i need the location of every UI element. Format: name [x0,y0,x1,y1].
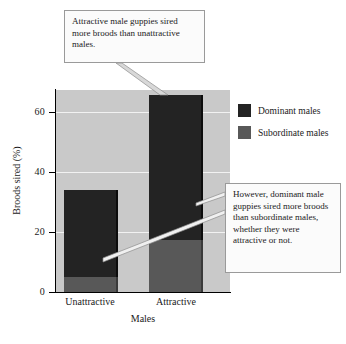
y-axis-line [55,89,56,293]
legend-swatch-dominant-males [238,104,251,117]
legend-swatch-subordinate-males [238,126,251,139]
y-tick-mark-20 [49,232,55,233]
y-axis-title: Broods sired (%) [11,121,22,241]
y-tick-label-60: 60 [35,107,45,117]
legend-label-subordinate-males: Subordinate males [258,128,328,138]
plot-inner [56,90,230,292]
legend-item-dominant-males[interactable]: Dominant males [238,104,328,117]
bar-group-unattractive [64,190,118,292]
callout-right: However, dominant male guppies sired mor… [225,183,341,273]
x-tick-label-attractive: Attractive [135,296,217,307]
bar-group-attractive [149,95,203,292]
y-tick-mark-60 [49,112,55,113]
x-tick-label-unattractive: Unattractive [48,296,132,307]
legend-label-dominant-males: Dominant males [258,106,321,116]
figure: 60 40 20 0 Unattractive Attractive Brood… [0,0,346,344]
legend-item-subordinate-males[interactable]: Subordinate males [238,126,328,139]
x-axis-title: Males [56,313,230,324]
gridline-60 [56,112,230,113]
legend: Dominant males Subordinate males [238,104,328,148]
x-axis-line [55,292,231,293]
callout-top: Attractive male guppies sired more brood… [64,10,205,63]
y-tick-label-40: 40 [35,167,45,177]
gridline-40 [56,172,230,173]
y-tick-label-20: 20 [35,227,45,237]
y-tick-mark-0 [49,292,55,293]
y-tick-label-0: 0 [40,287,45,297]
y-tick-mark-40 [49,172,55,173]
plot-area [56,90,230,292]
bar-attractive-subordinate[interactable] [149,240,203,292]
bar-unattractive-subordinate[interactable] [64,277,118,292]
